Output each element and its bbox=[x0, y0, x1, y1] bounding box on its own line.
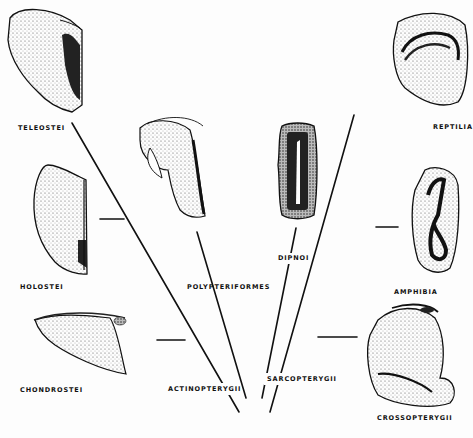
reptilia-section bbox=[393, 13, 467, 105]
label-crossopterygii: CROSSOPTERYGII bbox=[377, 414, 453, 422]
dipnoi-section bbox=[278, 123, 317, 219]
holostei-section bbox=[34, 165, 87, 274]
label-sarcopterygii: SARCOPTERYGII bbox=[267, 375, 337, 383]
chondrostei-section bbox=[34, 313, 126, 374]
phylogeny-diagram: TELEOSTEI HOLOSTEI CHONDROSTEI POLYPTERI… bbox=[0, 0, 473, 438]
label-reptilia: REPTILIA bbox=[433, 123, 473, 131]
branch-polypteriformes bbox=[197, 232, 246, 398]
teleostei-section bbox=[8, 10, 82, 112]
label-holostei: HOLOSTEI bbox=[20, 283, 64, 291]
amphibia-section bbox=[412, 168, 459, 272]
label-dipnoi: DIPNOI bbox=[278, 254, 309, 262]
tree-lines bbox=[0, 0, 473, 438]
label-chondrostei: CHONDROSTEI bbox=[20, 386, 83, 394]
crossopterygii-section bbox=[368, 305, 455, 407]
label-actinopterygii: ACTINOPTERYGII bbox=[168, 385, 241, 393]
label-amphibia: AMPHIBIA bbox=[394, 288, 438, 296]
polypteriformes-section bbox=[140, 117, 205, 217]
label-polypteriformes: POLYPTERIFORMES bbox=[187, 283, 270, 291]
label-teleostei: TELEOSTEI bbox=[18, 124, 65, 132]
